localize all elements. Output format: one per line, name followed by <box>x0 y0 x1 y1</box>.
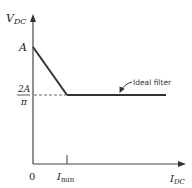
level-denominator: π <box>20 97 28 107</box>
ideal-filter-pointer-icon <box>120 82 132 92</box>
x-axis-label: IDC <box>169 173 186 186</box>
ideal-filter-label: Ideal filter <box>133 78 172 87</box>
y-axis-label: VDC <box>6 12 27 26</box>
imin-label: Imin <box>56 171 75 184</box>
level-numerator: 2A <box>17 84 31 94</box>
origin-label: 0 <box>29 171 35 182</box>
diagram-canvas: VDC A 2A π 0 Imin Ideal filter IDC <box>0 0 192 188</box>
descending-segment <box>33 47 67 95</box>
point-a-label: A <box>18 41 27 54</box>
